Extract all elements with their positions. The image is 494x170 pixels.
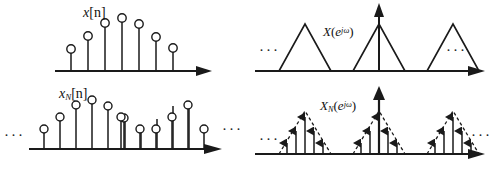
label-XN-of-ejw: XN(ejω) [320, 99, 356, 114]
label-X-close-paren: ) [349, 24, 353, 39]
stem-group [71, 19, 173, 71]
top-left-stem-svg [0, 0, 247, 85]
panel-top-right-spectrum: X(ejω) ··· ··· [247, 0, 494, 85]
x-axis-line [55, 66, 212, 76]
y-axis-line [374, 3, 384, 71]
figure-dtft-periodic-signal: x[n] [0, 0, 494, 170]
stem-group-period-2 [156, 106, 204, 149]
impulse-group-right [435, 117, 471, 154]
ellipsis-left-bottom-left: ··· [4, 128, 25, 143]
label-xn-of-n: xN[n] [59, 87, 88, 102]
label-XN-symbol: X [320, 98, 328, 113]
stem-group [44, 101, 189, 149]
label-XN-close-paren: ) [352, 98, 356, 113]
label-X-of-ejw: X(ejω) [323, 25, 354, 38]
ellipsis-left-bottom-right: ··· [259, 132, 280, 147]
panel-bottom-right-sampled-spectrum: XN(ejω) ··· ··· [247, 85, 494, 170]
panel-top-left-xn: x[n] [0, 0, 247, 85]
ellipsis-right-top-right: ··· [446, 43, 467, 58]
label-x-of-n-brackets: [n] [89, 5, 105, 20]
label-X-symbol: X [323, 24, 331, 39]
panel-bottom-left-xnn: xN[n] ··· ··· [0, 85, 247, 170]
ellipsis-right-bottom-left: ··· [222, 122, 243, 137]
ellipsis-left-top-right: ··· [259, 43, 280, 58]
label-XN-exponent: jω [344, 100, 352, 109]
ellipsis-right-bottom-right: ··· [471, 128, 492, 143]
bottom-right-impulse-svg [247, 85, 494, 170]
impulse-group-center [361, 117, 397, 154]
stem-marker-corrected [117, 113, 125, 121]
bottom-left-stem-svg [0, 85, 247, 170]
impulse-group-left [287, 117, 323, 154]
x-axis-line [255, 66, 485, 76]
label-xn-brackets: [n] [71, 86, 87, 101]
label-x-of-n: x[n] [83, 6, 106, 20]
